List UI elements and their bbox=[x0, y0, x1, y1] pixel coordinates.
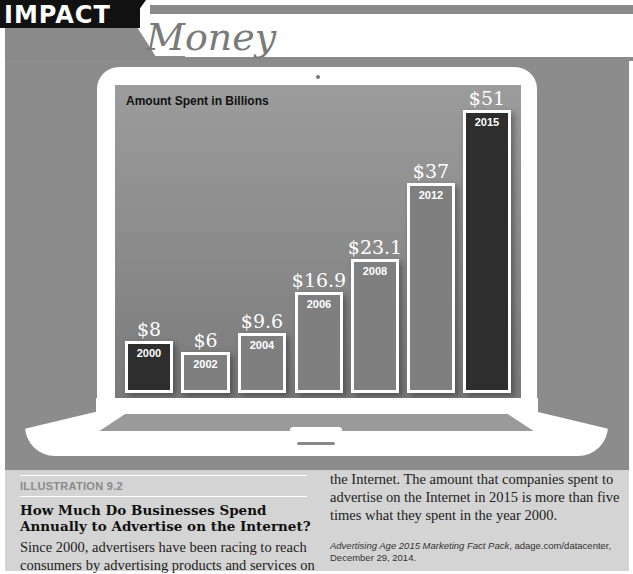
caption-source: Advertising Age 2015 Marketing Fact Pack… bbox=[330, 540, 625, 564]
bar-year-label: 2006 bbox=[298, 298, 340, 310]
chart-title: Amount Spent in Billions bbox=[126, 94, 269, 108]
bar-year-label: 2015 bbox=[466, 116, 508, 128]
source-title: Advertising Age 2015 Marketing Fact Pack bbox=[330, 540, 509, 551]
bar-2015: 2015 bbox=[463, 110, 511, 393]
caption-divider-bottom bbox=[20, 496, 307, 497]
bar-2004: 2004 bbox=[238, 333, 286, 393]
bar-year-label: 2004 bbox=[241, 339, 283, 351]
laptop-front-slot bbox=[297, 442, 335, 445]
bar-value-label: $16.9 bbox=[285, 270, 353, 290]
caption-heading: How Much Do Businesses Spend Annually to… bbox=[20, 502, 320, 534]
page-title: Money bbox=[146, 15, 276, 59]
caption-divider-top bbox=[20, 475, 307, 476]
header-top-stripe bbox=[150, 5, 633, 14]
laptop-lid-notch bbox=[290, 427, 342, 432]
caption-body-right: the Internet. The amount that companies … bbox=[330, 470, 625, 524]
bar-value-label: $6 bbox=[171, 330, 240, 350]
bar-2002: 2002 bbox=[181, 352, 230, 393]
bar-year-label: 2008 bbox=[354, 265, 396, 277]
camera-dot-icon bbox=[316, 75, 320, 79]
bar-2008: 2008 bbox=[351, 259, 399, 393]
bar-year-label: 2002 bbox=[184, 358, 227, 370]
bar-year-label: 2000 bbox=[128, 347, 170, 359]
bar-value-label: $23.1 bbox=[341, 237, 409, 257]
bar-2006: 2006 bbox=[295, 292, 343, 393]
illustration-label: ILLUSTRATION 9.2 bbox=[20, 480, 123, 492]
bar-value-label: $37 bbox=[397, 161, 465, 181]
bar-2000: 2000 bbox=[125, 341, 173, 393]
section-label: IMPACT bbox=[4, 1, 111, 29]
bar-2012: 2012 bbox=[407, 183, 455, 393]
impact-tab-slant bbox=[126, 0, 146, 28]
bar-value-label: $51 bbox=[453, 88, 521, 108]
bar-value-label: $9.6 bbox=[228, 311, 296, 331]
caption-body-left: Since 2000, advertisers have been racing… bbox=[20, 538, 320, 574]
bar-year-label: 2012 bbox=[410, 189, 452, 201]
